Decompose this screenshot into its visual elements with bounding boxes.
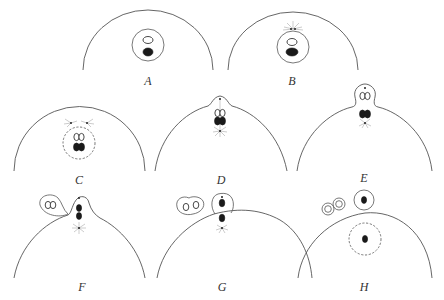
chromatin-mass (286, 48, 298, 56)
panel-d (155, 96, 287, 171)
panel-f (14, 195, 145, 278)
chromosome-solid (220, 117, 226, 125)
polar-body-chromatin (361, 197, 366, 204)
chromosome-hollow (215, 109, 220, 116)
panel-a (83, 10, 213, 70)
centrosome-dot (219, 98, 221, 100)
first-polar-body (177, 197, 204, 215)
nucleolus-hollow (287, 39, 297, 46)
chromosome-solid (79, 143, 85, 151)
panel-label-h: H (360, 281, 369, 293)
polar-body-inner (325, 206, 332, 213)
centrosome-dot (290, 28, 292, 30)
polar-body (333, 198, 345, 210)
polar-body-chromosome (50, 201, 56, 208)
centrosome-dot (70, 122, 72, 124)
centrosome-dot (221, 227, 223, 229)
panel-label-a: A (144, 75, 151, 87)
female-pronucleus-chromatin (362, 235, 367, 242)
germinal-vesicle (277, 31, 309, 63)
centrosome-dot (364, 87, 366, 89)
polar-body-chromosome (193, 201, 199, 208)
centrosome-dot (221, 196, 223, 198)
centrosome-dot (364, 122, 366, 124)
chromosome-hollow (74, 133, 79, 140)
centrosome-dot (86, 122, 88, 124)
panel-label-f: F (78, 281, 85, 293)
chromatin-mass (143, 48, 153, 56)
chromosome-hollow (220, 109, 225, 116)
chromosome-solid (365, 110, 371, 118)
polar-body-inner (336, 201, 343, 208)
panel-label-d: D (217, 174, 226, 186)
chromosome-solid (219, 214, 225, 222)
polar-body-chromosome (183, 203, 189, 210)
centrosome-dot (219, 130, 221, 132)
panel-c (14, 107, 145, 171)
panel-label-e: E (360, 172, 367, 184)
dissolving-nuclear-envelope (63, 127, 95, 159)
panel-e (297, 84, 432, 171)
polar-body-chromosome (360, 92, 365, 99)
egg-maturation-figure: A B C D E F G H (0, 0, 444, 300)
panel-b (228, 12, 358, 70)
aster-icon (283, 21, 303, 30)
centrosome-dot (294, 28, 296, 30)
chromosome-solid (76, 213, 81, 220)
panel-label-g: G (218, 281, 227, 293)
aster-icon (64, 119, 94, 127)
chromosome-hollow (79, 133, 84, 140)
panel-label-b: B (288, 75, 295, 87)
panel-g (157, 193, 312, 278)
egg-surface-with-protrusion (155, 96, 287, 171)
panel-label-c: C (75, 174, 83, 186)
chromosome-solid (76, 205, 81, 212)
panel-h (298, 190, 432, 278)
diagram-canvas (0, 0, 444, 300)
polar-body (322, 203, 334, 215)
chromosome-solid (219, 199, 225, 207)
egg-surface (157, 210, 312, 278)
centrosome-dot (78, 227, 80, 229)
centrosome-dot (78, 197, 80, 199)
egg-surface (298, 213, 432, 278)
nucleolus-hollow (143, 37, 153, 44)
polar-body-chromosome (365, 92, 370, 99)
